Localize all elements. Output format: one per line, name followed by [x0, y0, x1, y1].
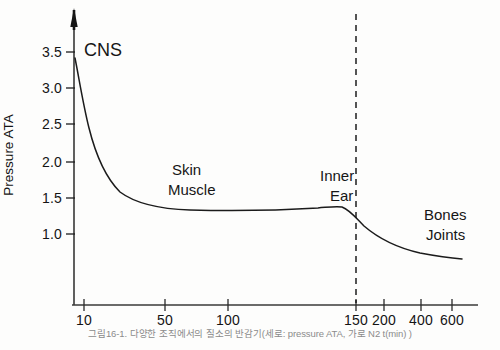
annotation-inner-ear: Inner Ear — [320, 166, 354, 206]
chart-screenshot: 3.5 3.0 2.5 2.0 1.5 1.0 Pressure ATA 10 … — [0, 0, 500, 350]
annotation-skin-line1: Skin — [172, 161, 201, 178]
y-tick-label: 1.0 — [28, 226, 62, 242]
annotation-cns: CNS — [84, 40, 122, 60]
annotation-cns-line1: CNS — [84, 40, 122, 60]
annotation-bones-line1: Bones — [424, 206, 467, 223]
y-tick-label: 2.0 — [28, 154, 62, 170]
y-tick-label: 1.5 — [28, 190, 62, 206]
annotation-skin-line2: Muscle — [168, 180, 216, 200]
data-curve — [75, 58, 462, 259]
annotation-inner-line1: Inner — [320, 167, 354, 184]
annotation-bones-line2: Joints — [426, 225, 467, 245]
y-tick-label: 3.5 — [28, 44, 62, 60]
figure-caption: 그림16-1. 다양한 조직에서의 질소의 반감기(세로: pressure A… — [0, 326, 500, 340]
y-tick-label: 3.0 — [28, 80, 62, 96]
annotation-skin-muscle: Skin Muscle — [172, 160, 216, 200]
y-axis-title: Pressure ATA — [1, 95, 16, 215]
chart-canvas — [0, 0, 500, 350]
annotation-inner-line2: Ear — [330, 186, 354, 206]
plot-area: 3.5 3.0 2.5 2.0 1.5 1.0 Pressure ATA 10 … — [0, 0, 500, 350]
y-tick-label: 2.5 — [28, 116, 62, 132]
annotation-bones-joints: Bones Joints — [424, 205, 467, 245]
